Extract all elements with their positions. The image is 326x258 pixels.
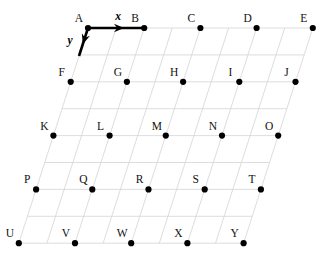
point-label: A bbox=[75, 12, 84, 24]
lattice-point-dot bbox=[219, 133, 225, 139]
lattice-point-dot bbox=[310, 25, 316, 31]
lattice-point-dot bbox=[254, 25, 260, 31]
lattice-point-dot bbox=[33, 186, 39, 192]
point-label: S bbox=[192, 173, 198, 185]
lattice-point-dot bbox=[163, 133, 169, 139]
lattice-point-dot bbox=[107, 133, 113, 139]
lattice-point-dot bbox=[180, 79, 186, 85]
point-label: R bbox=[136, 173, 144, 185]
point-labels: ABCDEFGHIJKLMNOPQRSTUVWXY bbox=[6, 12, 308, 239]
lattice-point-dot bbox=[236, 79, 242, 85]
point-label: I bbox=[228, 66, 232, 78]
lattice-figure: ABCDEFGHIJKLMNOPQRSTUVWXY xy bbox=[0, 0, 326, 258]
lattice-point-dot bbox=[275, 133, 281, 139]
point-label: X bbox=[174, 227, 183, 239]
lattice-canvas: ABCDEFGHIJKLMNOPQRSTUVWXY xy bbox=[0, 0, 326, 258]
point-label: B bbox=[131, 12, 139, 24]
point-label: T bbox=[248, 173, 255, 185]
point-label: U bbox=[6, 227, 15, 239]
lattice-point-dot bbox=[241, 240, 247, 246]
lattice-point-dot bbox=[16, 240, 22, 246]
lattice-point-dot bbox=[72, 240, 78, 246]
point-label: P bbox=[24, 173, 30, 185]
point-label: K bbox=[40, 120, 49, 132]
lattice-point-dot bbox=[145, 186, 151, 192]
lattice-point-dot bbox=[184, 240, 190, 246]
point-label: D bbox=[243, 12, 251, 24]
point-label: H bbox=[170, 66, 178, 78]
point-label: M bbox=[152, 120, 162, 132]
point-label: J bbox=[284, 66, 289, 78]
lattice-point-dot bbox=[197, 25, 203, 31]
lattice-point-dot bbox=[202, 186, 208, 192]
point-label: F bbox=[58, 66, 64, 78]
point-label: L bbox=[97, 120, 104, 132]
point-label: Y bbox=[230, 227, 239, 239]
lattice-point-dot bbox=[124, 79, 130, 85]
lattice-point-dot bbox=[128, 240, 134, 246]
point-label: O bbox=[265, 120, 273, 132]
point-label: E bbox=[300, 12, 307, 24]
lattice-point-dot bbox=[258, 186, 264, 192]
lattice-point-dot bbox=[89, 186, 95, 192]
lattice-point-dot bbox=[292, 79, 298, 85]
x-vector-label: x bbox=[114, 10, 121, 22]
lattice-point-dot bbox=[68, 79, 74, 85]
point-label: V bbox=[62, 227, 71, 239]
point-label: W bbox=[117, 227, 128, 239]
lattice-point-dot bbox=[50, 133, 56, 139]
y-vector-label: y bbox=[65, 34, 73, 47]
point-label: N bbox=[209, 120, 218, 132]
point-label: C bbox=[188, 12, 196, 24]
point-label: Q bbox=[79, 173, 88, 185]
point-label: G bbox=[114, 66, 122, 78]
